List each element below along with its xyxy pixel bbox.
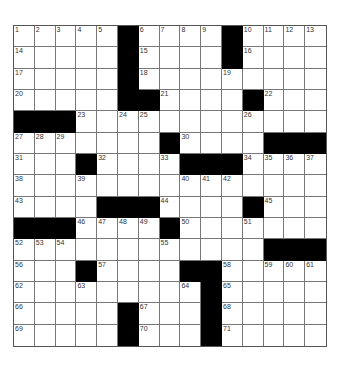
grid-cell[interactable]: 41 xyxy=(201,175,222,196)
grid-cell[interactable] xyxy=(305,69,326,90)
grid-cell[interactable] xyxy=(118,239,139,260)
grid-cell[interactable]: 28 xyxy=(35,133,56,154)
grid-cell[interactable] xyxy=(180,325,201,346)
grid-cell[interactable]: 21 xyxy=(160,90,181,111)
grid-cell[interactable]: 9 xyxy=(201,26,222,47)
grid-cell[interactable] xyxy=(76,69,97,90)
grid-cell[interactable]: 1 xyxy=(14,26,35,47)
grid-cell[interactable] xyxy=(97,239,118,260)
grid-cell[interactable]: 40 xyxy=(180,175,201,196)
grid-cell[interactable]: 11 xyxy=(264,26,285,47)
grid-cell[interactable] xyxy=(35,325,56,346)
grid-cell[interactable]: 35 xyxy=(264,154,285,175)
grid-cell[interactable] xyxy=(160,261,181,282)
grid-cell[interactable] xyxy=(284,90,305,111)
grid-cell[interactable] xyxy=(305,47,326,68)
grid-cell[interactable] xyxy=(264,325,285,346)
grid-cell[interactable] xyxy=(222,111,243,132)
grid-cell[interactable] xyxy=(160,47,181,68)
grid-cell[interactable] xyxy=(97,69,118,90)
grid-cell[interactable] xyxy=(201,69,222,90)
grid-cell[interactable]: 29 xyxy=(56,133,77,154)
grid-cell[interactable] xyxy=(201,133,222,154)
grid-cell[interactable] xyxy=(264,111,285,132)
grid-cell[interactable] xyxy=(243,69,264,90)
grid-cell[interactable]: 5 xyxy=(97,26,118,47)
grid-cell[interactable] xyxy=(284,111,305,132)
grid-cell[interactable] xyxy=(243,303,264,324)
grid-cell[interactable] xyxy=(160,175,181,196)
grid-cell[interactable]: 65 xyxy=(222,282,243,303)
grid-cell[interactable] xyxy=(305,282,326,303)
grid-cell[interactable]: 18 xyxy=(139,69,160,90)
grid-cell[interactable]: 7 xyxy=(160,26,181,47)
grid-cell[interactable] xyxy=(305,325,326,346)
grid-cell[interactable] xyxy=(284,69,305,90)
grid-cell[interactable] xyxy=(76,133,97,154)
grid-cell[interactable]: 12 xyxy=(284,26,305,47)
grid-cell[interactable]: 39 xyxy=(76,175,97,196)
grid-cell[interactable]: 15 xyxy=(139,47,160,68)
grid-cell[interactable] xyxy=(35,47,56,68)
grid-cell[interactable]: 4 xyxy=(76,26,97,47)
grid-cell[interactable]: 22 xyxy=(264,90,285,111)
grid-cell[interactable] xyxy=(139,133,160,154)
grid-cell[interactable]: 47 xyxy=(97,218,118,239)
grid-cell[interactable]: 8 xyxy=(180,26,201,47)
grid-cell[interactable] xyxy=(201,90,222,111)
grid-cell[interactable]: 71 xyxy=(222,325,243,346)
grid-cell[interactable] xyxy=(97,133,118,154)
grid-cell[interactable]: 45 xyxy=(264,197,285,218)
grid-cell[interactable]: 51 xyxy=(243,218,264,239)
grid-cell[interactable] xyxy=(264,47,285,68)
grid-cell[interactable] xyxy=(56,154,77,175)
grid-cell[interactable] xyxy=(264,218,285,239)
grid-cell[interactable] xyxy=(201,197,222,218)
grid-cell[interactable] xyxy=(222,197,243,218)
grid-cell[interactable]: 48 xyxy=(118,218,139,239)
grid-cell[interactable] xyxy=(243,261,264,282)
grid-cell[interactable] xyxy=(201,47,222,68)
grid-cell[interactable] xyxy=(56,90,77,111)
grid-cell[interactable]: 43 xyxy=(14,197,35,218)
grid-cell[interactable]: 26 xyxy=(243,111,264,132)
grid-cell[interactable]: 61 xyxy=(305,261,326,282)
grid-cell[interactable] xyxy=(284,197,305,218)
grid-cell[interactable] xyxy=(284,303,305,324)
grid-cell[interactable] xyxy=(264,175,285,196)
grid-cell[interactable]: 60 xyxy=(284,261,305,282)
grid-cell[interactable] xyxy=(56,303,77,324)
grid-cell[interactable] xyxy=(180,239,201,260)
grid-cell[interactable] xyxy=(139,282,160,303)
grid-cell[interactable]: 14 xyxy=(14,47,35,68)
grid-cell[interactable] xyxy=(118,154,139,175)
grid-cell[interactable]: 68 xyxy=(222,303,243,324)
grid-cell[interactable]: 56 xyxy=(14,261,35,282)
grid-cell[interactable] xyxy=(180,90,201,111)
grid-cell[interactable] xyxy=(35,175,56,196)
grid-cell[interactable] xyxy=(284,325,305,346)
grid-cell[interactable] xyxy=(305,90,326,111)
grid-cell[interactable] xyxy=(284,282,305,303)
grid-cell[interactable]: 50 xyxy=(180,218,201,239)
grid-cell[interactable]: 6 xyxy=(139,26,160,47)
grid-cell[interactable] xyxy=(180,197,201,218)
grid-cell[interactable] xyxy=(76,47,97,68)
grid-cell[interactable] xyxy=(139,261,160,282)
grid-cell[interactable]: 27 xyxy=(14,133,35,154)
grid-cell[interactable]: 57 xyxy=(97,261,118,282)
grid-cell[interactable] xyxy=(305,218,326,239)
grid-cell[interactable] xyxy=(180,47,201,68)
grid-cell[interactable] xyxy=(284,175,305,196)
grid-cell[interactable] xyxy=(201,218,222,239)
grid-cell[interactable] xyxy=(243,175,264,196)
grid-cell[interactable] xyxy=(160,303,181,324)
grid-cell[interactable] xyxy=(243,282,264,303)
grid-cell[interactable] xyxy=(118,282,139,303)
grid-cell[interactable] xyxy=(243,239,264,260)
grid-cell[interactable] xyxy=(97,47,118,68)
grid-cell[interactable] xyxy=(264,303,285,324)
grid-cell[interactable] xyxy=(56,261,77,282)
grid-cell[interactable]: 13 xyxy=(305,26,326,47)
grid-cell[interactable] xyxy=(139,175,160,196)
